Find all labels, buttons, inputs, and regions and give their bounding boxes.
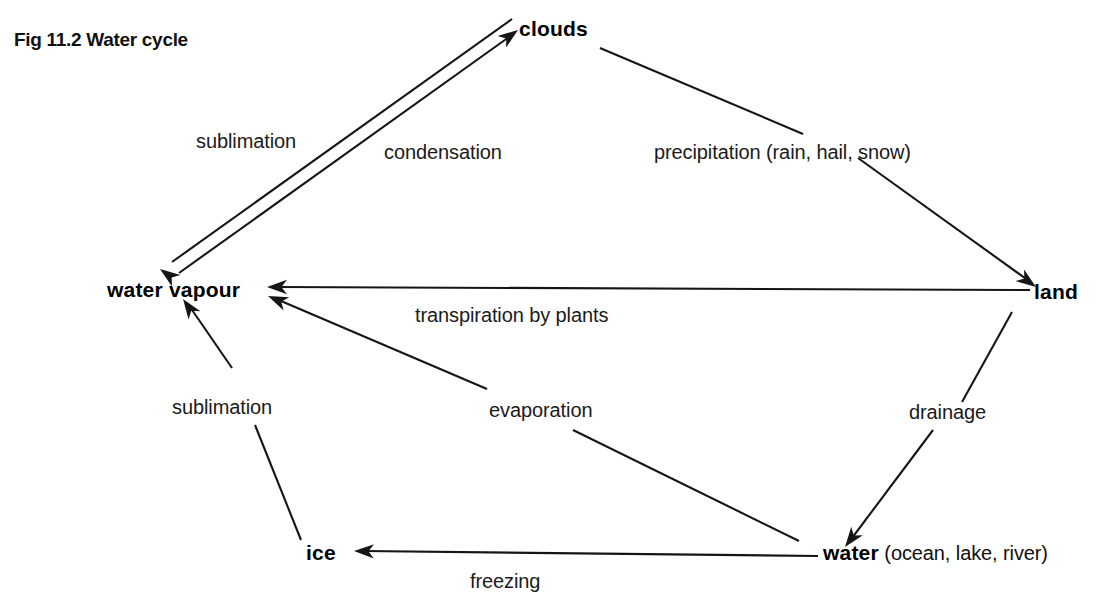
edge-label: evaporation <box>489 399 592 421</box>
edge-label: condensation <box>384 141 502 163</box>
edge-label: drainage <box>909 401 986 423</box>
edge-line-segment <box>277 287 1030 290</box>
edge-line-segment <box>858 158 1029 281</box>
edge-line-segment <box>573 430 799 541</box>
edge-line-segment <box>852 430 933 538</box>
water-cycle-diagram: sublimationcondensationprecipitation (ra… <box>0 0 1098 593</box>
edge-label: sublimation <box>196 130 296 152</box>
node-water: water (ocean, lake, river) <box>822 541 1048 564</box>
node-label-water_vapour: water vapour <box>106 278 240 301</box>
edge-label: sublimation <box>172 396 272 418</box>
edge-line-segment <box>600 48 803 134</box>
figure-caption: Fig 11.2 Water cycle <box>14 29 188 50</box>
edge-evaporation-water-to-vapour: evaporation <box>265 289 799 541</box>
node-label-water: water (ocean, lake, river) <box>822 541 1048 564</box>
edge-label: precipitation (rain, hail, snow) <box>654 141 911 163</box>
node-ice: ice <box>306 541 336 564</box>
node-water_vapour: water vapour <box>106 278 240 301</box>
node-label-land: land <box>1034 280 1078 303</box>
diagram-canvas: sublimationcondensationprecipitation (ra… <box>0 0 1098 593</box>
edge-label: freezing <box>470 570 540 592</box>
node-land: land <box>1034 280 1078 303</box>
edge-line-segment <box>364 551 818 556</box>
edge-label: transpiration by plants <box>415 304 608 326</box>
edge-transpiration-land-to-vapour: transpiration by plants <box>267 280 1030 326</box>
edge-sublimation-ice-to-vapour: sublimation <box>172 295 301 540</box>
node-label-ice: ice <box>306 541 336 564</box>
edge-freezing-water-to-ice: freezing <box>354 544 818 592</box>
edge-precipitation-clouds-to-land: precipitation (rain, hail, snow) <box>600 48 1040 293</box>
node-clouds: clouds <box>519 17 588 40</box>
edge-layer: sublimationcondensationprecipitation (ra… <box>156 19 1040 592</box>
node-label-clouds: clouds <box>519 17 588 40</box>
edge-line-segment <box>962 312 1012 402</box>
edge-drainage-land-to-water: drainage <box>839 312 1012 551</box>
edge-line-segment <box>190 307 232 368</box>
node-qualifier-water: (ocean, lake, river) <box>879 542 1048 564</box>
edge-line-segment <box>255 425 301 540</box>
